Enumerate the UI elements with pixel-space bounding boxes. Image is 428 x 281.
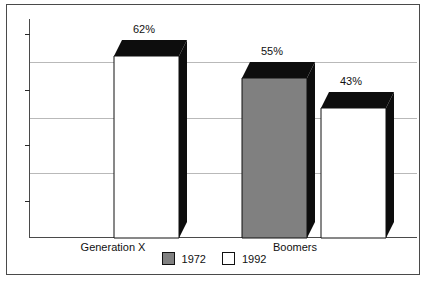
- plot-area: 62% 55% 43%: [29, 19, 417, 238]
- bar-top-face: [321, 92, 394, 108]
- bar-side-face: [307, 62, 315, 238]
- chart-legend: 1972 1992: [0, 252, 428, 265]
- bars-group: [29, 19, 417, 238]
- bar-side-face: [179, 40, 187, 238]
- bar-value-label: 62%: [133, 23, 155, 35]
- bar-value-label: 43%: [340, 75, 362, 87]
- bar-value-label: 55%: [261, 45, 283, 57]
- bar-top-face: [114, 40, 187, 56]
- bar-side-face: [386, 92, 394, 238]
- bar-front-face: [242, 78, 307, 238]
- bar-generation-x-1992[interactable]: [114, 40, 187, 238]
- bar-top-face: [242, 62, 315, 78]
- legend-swatch-1972: [162, 252, 175, 265]
- bar-front-face: [114, 56, 179, 238]
- chart-container: 62% 55% 43% Generation X Boomers 1972 19…: [0, 0, 428, 281]
- legend-item-1972[interactable]: 1972: [162, 252, 206, 265]
- legend-swatch-1992: [222, 252, 235, 265]
- bar-front-face: [321, 108, 386, 238]
- bar-boomers-1992[interactable]: [321, 92, 394, 238]
- bar-boomers-1972[interactable]: [242, 62, 315, 238]
- chart-frame: 62% 55% 43% Generation X Boomers: [6, 4, 420, 275]
- legend-label-1992: 1992: [242, 253, 266, 265]
- legend-item-1992[interactable]: 1992: [222, 252, 266, 265]
- legend-label-1972: 1972: [182, 253, 206, 265]
